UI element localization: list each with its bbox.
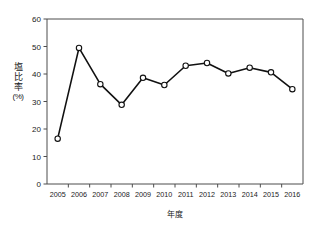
y-tick-label: 50 [32, 43, 41, 52]
x-axis-title: 年度 [167, 209, 183, 219]
x-tick-label: 2013 [220, 190, 236, 199]
plot-frame-rect [47, 19, 303, 184]
y-tick-label: 0 [37, 180, 42, 189]
x-tick-label: 2010 [156, 190, 172, 199]
data-point-marker [247, 65, 252, 70]
y-axis-tick-marks [44, 19, 48, 184]
x-tick-label: 2006 [71, 190, 87, 199]
x-tick-label: 2007 [92, 190, 108, 199]
y-tick-label: 10 [32, 153, 41, 162]
x-tick-label: 2012 [199, 190, 215, 199]
data-point-marker [55, 136, 60, 141]
data-series-group [55, 45, 295, 141]
x-axis-tick-labels: 2005200620072008200920102011201220132014… [50, 190, 301, 199]
data-point-marker [268, 70, 273, 75]
data-point-marker [98, 81, 103, 86]
x-tick-label: 2011 [178, 190, 193, 199]
x-tick-label: 2016 [284, 190, 300, 199]
y-axis-tick-labels: 0102030405060 [32, 15, 41, 189]
data-point-marker [140, 75, 145, 80]
data-markers [55, 45, 295, 141]
data-point-marker [290, 86, 295, 91]
x-tick-label: 2014 [242, 190, 258, 199]
x-axis-tick-marks [68, 184, 281, 188]
y-tick-label: 20 [32, 125, 41, 134]
plot-frame [47, 19, 303, 184]
data-point-marker [162, 82, 167, 87]
y-tick-label: 40 [32, 70, 41, 79]
x-tick-label: 2009 [135, 190, 151, 199]
x-tick-label: 2008 [114, 190, 130, 199]
data-point-marker [183, 63, 188, 68]
data-point-marker [204, 60, 209, 65]
data-point-marker [119, 102, 124, 107]
data-point-marker [76, 45, 81, 50]
data-point-marker [226, 71, 231, 76]
data-line [58, 48, 293, 139]
y-tick-label: 30 [32, 98, 41, 107]
chart-plot-area: 0102030405060 20052006200720082009201020… [0, 0, 327, 226]
x-tick-label: 2015 [263, 190, 279, 199]
line-chart: 塩 比 率 (%) 0102030405060 2005200620072008… [0, 0, 327, 226]
y-tick-label: 60 [32, 15, 41, 24]
x-tick-label: 2005 [50, 190, 66, 199]
